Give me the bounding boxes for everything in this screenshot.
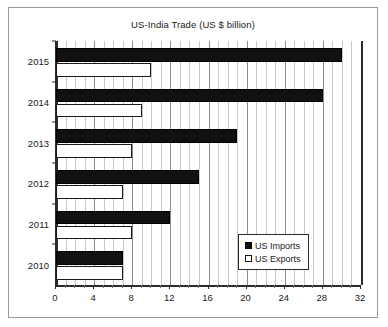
bar-exports-2011 — [56, 226, 132, 240]
bar-exports-2015 — [56, 63, 151, 77]
bar-exports-2014 — [56, 104, 142, 118]
x-tick-label-28: 28 — [317, 292, 328, 303]
x-tick-mark-23 — [274, 285, 275, 288]
x-tick-mark-26 — [303, 285, 304, 288]
bar-exports-2010 — [56, 266, 123, 280]
x-tick-mark-17 — [217, 285, 218, 288]
bar-imports-2011 — [56, 211, 170, 225]
x-tick-mark-9 — [141, 285, 142, 288]
bar-exports-2012 — [56, 185, 123, 199]
x-tick-mark-29 — [331, 285, 332, 288]
x-tick-mark-2 — [74, 285, 75, 288]
y-tick-label-2014: 2014 — [28, 97, 49, 108]
filled-square-icon — [245, 242, 252, 249]
x-tick-mark-13 — [179, 285, 180, 288]
x-tick-label-4: 4 — [90, 292, 95, 303]
x-tick-label-24: 24 — [278, 292, 289, 303]
y-tick-label-2011: 2011 — [29, 219, 49, 230]
x-tick-mark-28 — [322, 285, 323, 289]
x-tick-mark-25 — [293, 285, 294, 288]
bar-exports-2013 — [56, 144, 132, 158]
plot-area: 201520142013201220112010 — [55, 41, 360, 285]
y-tick-label-2013: 2013 — [28, 137, 49, 148]
x-tick-mark-7 — [122, 285, 123, 288]
legend-label: US Imports — [255, 241, 300, 251]
x-tick-mark-8 — [131, 285, 132, 289]
x-tick-mark-21 — [255, 285, 256, 288]
bar-imports-2014 — [56, 89, 323, 103]
y-tick-mark-0 — [52, 41, 56, 42]
x-tick-mark-6 — [112, 285, 113, 288]
y-tick-mark-4 — [52, 203, 56, 204]
y-tick-label-2015: 2015 — [28, 56, 49, 67]
y-tick-label-2012: 2012 — [28, 178, 49, 189]
bar-imports-2010 — [56, 251, 123, 265]
x-tick-mark-18 — [227, 285, 228, 288]
x-tick-mark-19 — [236, 285, 237, 288]
y-tick-mark-2 — [52, 122, 56, 123]
x-tick-mark-5 — [103, 285, 104, 288]
x-tick-mark-1 — [65, 285, 66, 288]
x-tick-mark-27 — [312, 285, 313, 288]
x-tick-mark-31 — [350, 285, 351, 288]
x-tick-label-12: 12 — [164, 292, 175, 303]
x-tick-mark-24 — [284, 285, 285, 289]
x-tick-mark-14 — [188, 285, 189, 288]
chart-legend: US ImportsUS Exports — [238, 234, 309, 270]
gridline-32 — [361, 41, 363, 285]
bar-imports-2012 — [56, 170, 199, 184]
bar-series-container — [56, 41, 360, 285]
legend-label: US Exports — [255, 254, 301, 264]
chart-title: US-India Trade (US $ billion) — [9, 19, 377, 30]
chart-figure: US-India Trade (US $ billion) 2015201420… — [8, 7, 378, 318]
y-tick-mark-3 — [52, 163, 56, 164]
x-tick-label-8: 8 — [129, 292, 134, 303]
x-tick-label-16: 16 — [202, 292, 213, 303]
x-tick-mark-22 — [265, 285, 266, 288]
x-tick-mark-30 — [341, 285, 342, 288]
x-tick-mark-10 — [150, 285, 151, 288]
x-tick-label-32: 32 — [355, 292, 366, 303]
x-tick-mark-12 — [169, 285, 170, 289]
y-tick-label-2010: 2010 — [28, 259, 49, 270]
x-tick-mark-32 — [360, 285, 361, 289]
x-tick-mark-0 — [55, 285, 56, 289]
y-tick-mark-5 — [52, 244, 56, 245]
open-square-icon — [245, 255, 252, 262]
x-tick-mark-15 — [198, 285, 199, 288]
bar-imports-2013 — [56, 129, 237, 143]
x-tick-mark-3 — [84, 285, 85, 288]
x-tick-mark-11 — [160, 285, 161, 288]
legend-item-us-imports: US Imports — [245, 239, 301, 252]
x-tick-label-20: 20 — [240, 292, 251, 303]
bar-imports-2015 — [56, 48, 342, 62]
x-tick-label-0: 0 — [52, 292, 57, 303]
x-tick-mark-4 — [93, 285, 94, 289]
y-tick-mark-1 — [52, 81, 56, 82]
legend-item-us-exports: US Exports — [245, 252, 301, 265]
x-tick-mark-20 — [246, 285, 247, 289]
x-tick-mark-16 — [208, 285, 209, 289]
